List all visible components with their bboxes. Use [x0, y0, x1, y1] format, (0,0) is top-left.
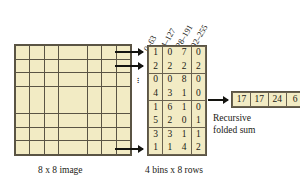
row-arrow-1 — [115, 51, 143, 53]
image-cell — [73, 73, 87, 86]
image-cell — [59, 128, 73, 141]
image-cell — [45, 114, 59, 127]
image-cell — [45, 60, 59, 73]
histogram-caption: 4 bins x 8 rows — [145, 165, 203, 175]
image-cell — [30, 114, 44, 127]
image-cell — [73, 114, 87, 127]
image-cell — [59, 114, 73, 127]
hist-cell: 2 — [163, 114, 176, 127]
image-cell — [30, 100, 44, 113]
image-cell — [30, 141, 44, 154]
hist-cell: 4 — [149, 87, 162, 100]
image-cell — [45, 141, 59, 154]
image-cell — [88, 128, 102, 141]
row-arrow-2 — [115, 65, 143, 67]
image-cell — [73, 46, 87, 59]
image-cell — [16, 73, 29, 86]
hist-cell: 2 — [177, 60, 190, 73]
image-cell — [73, 87, 87, 100]
hist-cell: 3 — [163, 87, 176, 100]
image-cell — [59, 60, 73, 73]
hist-cell: 1 — [177, 87, 190, 100]
image-cell — [73, 141, 87, 154]
image-cell — [16, 46, 29, 59]
recursive-folded-sum-label: Recursive folded sum — [213, 113, 255, 136]
image-cell — [102, 73, 116, 86]
image-cell — [16, 87, 29, 100]
image-cell — [45, 128, 59, 141]
ellipsis-dot: . — [135, 78, 141, 80]
hist-cell: 0 — [192, 101, 205, 114]
image-cell — [45, 46, 59, 59]
histogram-matrix: 1 0 7 0 2 2 2 2 0 0 8 0 4 3 1 0 1 6 1 0 … — [147, 45, 207, 156]
image-cell — [88, 100, 102, 113]
image-cell — [59, 73, 73, 86]
row-ellipsis: . . . — [135, 74, 141, 81]
image-cell — [30, 128, 44, 141]
hist-cell: 1 — [177, 101, 190, 114]
image-cell — [59, 46, 73, 59]
image-cell — [30, 60, 44, 73]
hist-cell: 1 — [163, 141, 176, 154]
image-cell — [117, 87, 131, 100]
hist-cell: 0 — [192, 47, 205, 60]
image-cell — [16, 128, 29, 141]
image-cell — [102, 141, 116, 154]
hist-cell: 2 — [163, 60, 176, 73]
image-cell — [102, 114, 116, 127]
image-cell — [16, 60, 29, 73]
hist-cell: 0 — [163, 47, 176, 60]
image-cell — [88, 87, 102, 100]
image-cell — [30, 73, 44, 86]
image-cell — [30, 87, 44, 100]
image-cell — [16, 141, 29, 154]
image-cell — [88, 46, 102, 59]
recursive-label-line1: Recursive — [213, 113, 255, 125]
hist-cell: 5 — [149, 114, 162, 127]
row-arrow-8 — [115, 148, 143, 150]
hist-cell: 1 — [149, 141, 162, 154]
hist-cell: 0 — [192, 87, 205, 100]
image-cell — [117, 73, 131, 86]
image-cell — [117, 128, 131, 141]
hist-cell: 0 — [177, 114, 190, 127]
image-cell — [59, 141, 73, 154]
image-cell — [117, 114, 131, 127]
fold-arrow — [208, 99, 228, 101]
hist-cell: 8 — [177, 74, 190, 87]
hist-cell: 1 — [177, 128, 190, 141]
hist-cell: 1 — [149, 101, 162, 114]
image-cell — [88, 60, 102, 73]
image-cell — [88, 73, 102, 86]
hist-cell: 2 — [192, 60, 205, 73]
hist-cell: 1 — [192, 114, 205, 127]
hist-cell: 6 — [163, 101, 176, 114]
output-cell: 17 — [251, 93, 268, 106]
image-cell — [73, 100, 87, 113]
hist-cell: 1 — [192, 128, 205, 141]
image-cell — [88, 141, 102, 154]
output-cell: 17 — [233, 93, 250, 106]
output-cell: 6 — [287, 93, 300, 106]
image-cell — [59, 87, 73, 100]
image-cell — [45, 73, 59, 86]
figure-container: . . . 0–63 64–127 128–191 192–255 1 0 7 … — [0, 0, 300, 187]
hist-cell: 7 — [177, 47, 190, 60]
hist-cell: 1 — [149, 47, 162, 60]
image-cell — [73, 60, 87, 73]
image-cell — [16, 114, 29, 127]
image-cell — [88, 114, 102, 127]
image-cell — [30, 46, 44, 59]
image-cell — [73, 128, 87, 141]
output-cell: 24 — [269, 93, 286, 106]
image-cell — [102, 87, 116, 100]
image-cell — [102, 128, 116, 141]
hist-cell: 0 — [149, 74, 162, 87]
recursive-label-line2: folded sum — [213, 125, 255, 137]
image-cell — [45, 87, 59, 100]
image-grid-8x8 — [14, 44, 132, 156]
hist-cell: 0 — [192, 74, 205, 87]
hist-cell: 2 — [149, 60, 162, 73]
image-grid-caption: 8 x 8 image — [38, 165, 83, 175]
hist-cell: 0 — [163, 74, 176, 87]
